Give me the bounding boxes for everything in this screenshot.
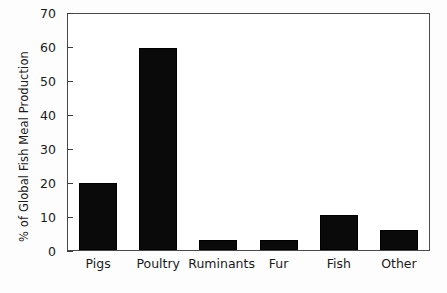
bars-layer — [68, 14, 429, 250]
x-axis-label: Fish — [309, 256, 369, 271]
y-tick-label: 40 — [30, 108, 56, 123]
y-tick-label: 60 — [30, 40, 56, 55]
y-tick-label: 50 — [30, 74, 56, 89]
x-axis-label: Poultry — [128, 256, 188, 271]
y-tick-label: 10 — [30, 210, 56, 225]
x-axis-label: Pigs — [68, 256, 128, 271]
bar — [260, 240, 298, 250]
x-axis-labels: PigsPoultryRuminantsFurFishOther — [68, 256, 429, 278]
y-tick-label: 30 — [30, 142, 56, 157]
x-axis-label: Ruminants — [188, 256, 248, 271]
bar — [320, 215, 358, 250]
y-tick-label: 0 — [30, 244, 56, 259]
bar — [199, 240, 237, 250]
y-tick-label: 70 — [30, 6, 56, 21]
x-axis-label: Other — [369, 256, 429, 271]
x-axis-label: Fur — [249, 256, 309, 271]
y-tick-label: 20 — [30, 176, 56, 191]
bar — [139, 48, 177, 250]
y-tick-mark — [67, 251, 73, 252]
bar — [79, 183, 117, 250]
bar-chart: % of Global Fish Meal Production 0102030… — [0, 0, 447, 293]
bar — [380, 230, 418, 250]
